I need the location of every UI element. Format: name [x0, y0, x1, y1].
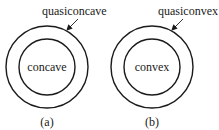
- outer-label-quasiconvex: quasiconvex: [158, 4, 218, 18]
- panel-b: convex quasiconvex (b): [111, 4, 218, 129]
- caption-b: (b): [145, 115, 159, 129]
- arrow-to-outer-circle: [67, 19, 78, 30]
- inner-label-convex: convex: [135, 60, 170, 74]
- caption-a: (a): [40, 115, 53, 129]
- set-inclusion-diagram: concave quasiconcave (a) convex quasicon…: [0, 0, 219, 130]
- outer-label-quasiconcave: quasiconcave: [42, 4, 107, 18]
- panel-a: concave quasiconcave (a): [6, 4, 107, 129]
- arrow-to-outer-circle: [172, 19, 183, 30]
- inner-label-concave: concave: [27, 60, 66, 74]
